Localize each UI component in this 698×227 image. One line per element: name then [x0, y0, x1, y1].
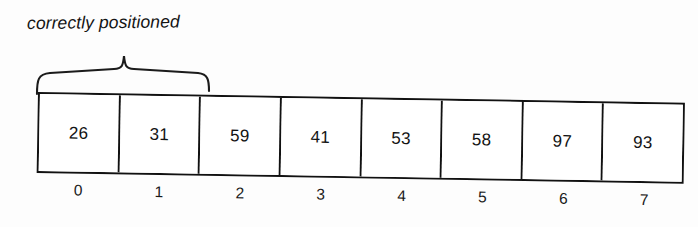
- curly-brace-icon: [30, 48, 215, 96]
- array-cell-value: 93: [633, 132, 653, 152]
- array-cell-value: 58: [472, 130, 492, 150]
- array-index-label: 2: [199, 184, 280, 211]
- array-cell[interactable]: 31: [119, 95, 201, 173]
- array-cell-value: 31: [149, 124, 169, 144]
- array-cell-value: 41: [311, 127, 331, 147]
- array-cell[interactable]: 41: [281, 98, 363, 176]
- figure-canvas: correctly positioned 26 31 59 41 53: [0, 0, 698, 227]
- array-cell[interactable]: 53: [361, 99, 443, 177]
- array-cell[interactable]: 97: [522, 102, 604, 180]
- array-cell[interactable]: 59: [200, 97, 282, 175]
- array-index-label: 6: [523, 189, 604, 216]
- array-cell-value: 26: [69, 123, 89, 143]
- array-cell-value: 59: [230, 126, 250, 146]
- array-index-label: 3: [280, 185, 361, 212]
- array-index-label: 0: [38, 181, 119, 208]
- array-index-label: 4: [361, 186, 442, 213]
- curly-brace-svg: [30, 48, 215, 96]
- array-cell[interactable]: 93: [603, 103, 683, 181]
- array-container: 26 31 59 41 53 58 97 93: [37, 92, 685, 189]
- array-index-label: 5: [442, 188, 523, 215]
- array-cell-value: 97: [552, 131, 572, 151]
- array-index-label: 1: [118, 182, 199, 209]
- array-cell[interactable]: 26: [39, 94, 121, 172]
- array-row: 26 31 59 41 53 58 97 93: [37, 92, 685, 184]
- annotation-label: correctly positioned: [27, 11, 180, 34]
- array-cell[interactable]: 58: [442, 101, 524, 179]
- array-cell-value: 53: [391, 128, 411, 148]
- array-index-label: 7: [604, 190, 685, 217]
